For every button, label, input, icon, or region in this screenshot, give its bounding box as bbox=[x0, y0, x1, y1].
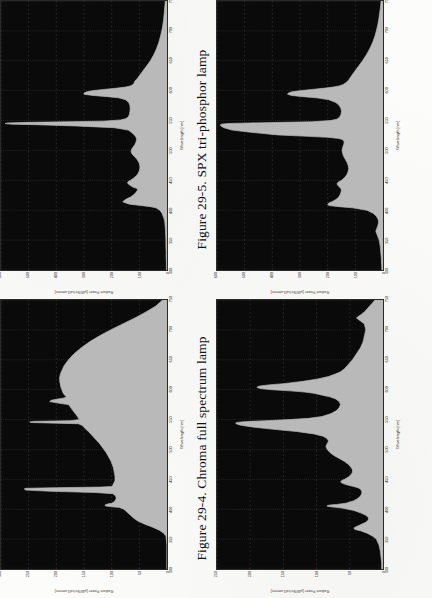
x-tick-label: 400 bbox=[169, 208, 173, 214]
x-tick-label: 500 bbox=[169, 446, 173, 452]
y-tick-label: 250 bbox=[26, 571, 30, 577]
y-tick-label: 600 bbox=[214, 272, 218, 278]
plot-canvas bbox=[216, 0, 384, 271]
x-tick-label: 400 bbox=[169, 507, 173, 513]
x-axis-label: Wavelength [nm] bbox=[179, 0, 188, 271]
spectrum-trace bbox=[5, 1, 167, 270]
y-tick-label: 150 bbox=[281, 571, 285, 577]
x-tick-label: 500 bbox=[385, 446, 389, 452]
x-tick-label: 350 bbox=[169, 238, 173, 244]
plot-wrapper bbox=[216, 299, 384, 570]
plot-wrapper bbox=[0, 299, 168, 570]
figure-block-29-4: Radiant Power [µW/Str/cd/Lumens] 0501001… bbox=[0, 299, 216, 598]
spectrum-svg bbox=[217, 300, 383, 569]
x-axis-ticks: 300350400450500550600650700750 bbox=[168, 0, 179, 271]
spectrum-trace bbox=[24, 300, 167, 569]
x-tick-label: 500 bbox=[385, 147, 389, 153]
x-tick-label: 350 bbox=[385, 537, 389, 543]
spectrum-svg bbox=[217, 1, 383, 270]
x-tick-label: 700 bbox=[385, 27, 389, 33]
x-tick-label: 750 bbox=[169, 296, 173, 302]
y-axis-label-text: Radiant Power [µW/Str/cd/Lumens] bbox=[55, 590, 114, 594]
y-tick-label: 400 bbox=[270, 272, 274, 278]
chart-top-right: Radiant Power [µW/Str/cd/Lumens] 0100200… bbox=[216, 0, 384, 299]
y-tick-label: 200 bbox=[54, 571, 58, 577]
figure-block-top-right: Radiant Power [µW/Str/cd/Lumens] 0100200… bbox=[216, 0, 432, 299]
x-tick-label: 300 bbox=[385, 268, 389, 274]
y-tick-label: 600 bbox=[0, 272, 2, 278]
x-tick-label: 450 bbox=[169, 477, 173, 483]
plot-canvas bbox=[0, 0, 168, 271]
x-tick-label: 650 bbox=[385, 57, 389, 63]
chart-29-5: Radiant Power [µW/Str/cd/Lumens] 0100200… bbox=[0, 0, 168, 299]
y-tick-label: 100 bbox=[138, 272, 142, 278]
y-tick-label: 100 bbox=[110, 571, 114, 577]
plot-canvas bbox=[216, 299, 384, 570]
chart-29-4: Radiant Power [µW/Str/cd/Lumens] 0501001… bbox=[0, 299, 168, 598]
x-tick-label: 500 bbox=[169, 147, 173, 153]
x-tick-label: 750 bbox=[385, 0, 389, 3]
spectrum-trace bbox=[236, 300, 383, 569]
y-tick-label: 200 bbox=[248, 571, 252, 577]
y-axis-label: Radiant Power [µW/Str/cd/Lumens] bbox=[0, 286, 168, 299]
x-tick-label: 600 bbox=[169, 87, 173, 93]
y-tick-label: 150 bbox=[82, 571, 86, 577]
x-tick-label: 600 bbox=[169, 386, 173, 392]
x-axis-label: Wavelength [nm] bbox=[179, 299, 188, 570]
x-tick-label: 700 bbox=[169, 27, 173, 33]
x-tick-label: 300 bbox=[169, 567, 173, 573]
chart-bottom-right: Radiant Power [µW/Str/cd/Lumens] 0501001… bbox=[216, 299, 384, 598]
x-tick-label: 600 bbox=[385, 87, 389, 93]
y-axis-ticks: 0100200300400500600 bbox=[0, 271, 168, 286]
y-axis-label: Radiant Power [µW/Str/cd/Lumens] bbox=[216, 585, 384, 598]
x-tick-label: 350 bbox=[385, 238, 389, 244]
y-axis-label: Radiant Power [µW/Str/cd/Lumens] bbox=[216, 286, 384, 299]
y-tick-label: 300 bbox=[82, 272, 86, 278]
x-tick-label: 700 bbox=[385, 326, 389, 332]
y-tick-label: 100 bbox=[354, 272, 358, 278]
x-tick-label: 650 bbox=[169, 57, 173, 63]
y-axis-label-text: Radiant Power [µW/Str/cd/Lumens] bbox=[271, 291, 330, 295]
x-tick-label: 400 bbox=[385, 208, 389, 214]
y-tick-label: 250 bbox=[214, 571, 218, 577]
plot-wrapper bbox=[0, 0, 168, 271]
figure-block-bottom-right: Radiant Power [µW/Str/cd/Lumens] 0501001… bbox=[216, 299, 432, 598]
y-axis-ticks: 050100150200250300 bbox=[0, 570, 168, 585]
y-tick-label: 200 bbox=[110, 272, 114, 278]
y-axis-label-text: Radiant Power [µW/Str/cd/Lumens] bbox=[55, 291, 114, 295]
x-tick-label: 550 bbox=[385, 416, 389, 422]
x-tick-label: 550 bbox=[169, 416, 173, 422]
y-tick-label: 300 bbox=[298, 272, 302, 278]
x-tick-label: 300 bbox=[169, 268, 173, 274]
figure-caption: Figure 29-4. Chroma full spectrum lamp bbox=[194, 299, 210, 598]
spectrum-svg bbox=[1, 1, 167, 270]
x-tick-label: 450 bbox=[385, 477, 389, 483]
x-tick-label: 600 bbox=[385, 386, 389, 392]
y-tick-label: 400 bbox=[54, 272, 58, 278]
x-tick-label: 550 bbox=[169, 117, 173, 123]
x-tick-label: 700 bbox=[169, 326, 173, 332]
figure-block-29-5: Radiant Power [µW/Str/cd/Lumens] 0100200… bbox=[0, 0, 216, 299]
y-tick-label: 500 bbox=[26, 272, 30, 278]
plot-wrapper bbox=[216, 0, 384, 271]
y-tick-label: 50 bbox=[348, 571, 352, 575]
y-tick-label: 300 bbox=[0, 571, 2, 577]
y-tick-label: 200 bbox=[326, 272, 330, 278]
x-tick-label: 350 bbox=[169, 537, 173, 543]
y-tick-label: 100 bbox=[315, 571, 319, 577]
x-tick-label: 750 bbox=[169, 0, 173, 3]
y-tick-label: 50 bbox=[138, 571, 142, 575]
x-tick-label: 750 bbox=[385, 296, 389, 302]
y-axis-ticks: 050100150200250 bbox=[216, 570, 384, 585]
spectrum-svg bbox=[1, 300, 167, 569]
x-tick-label: 650 bbox=[169, 356, 173, 362]
x-axis-ticks: 300350400450500550600650700750 bbox=[168, 299, 179, 570]
x-axis-ticks: 300350400450500550600650700750 bbox=[384, 0, 395, 271]
x-axis-ticks: 300350400450500550600650700750 bbox=[384, 299, 395, 570]
x-tick-label: 650 bbox=[385, 356, 389, 362]
x-tick-label: 400 bbox=[385, 507, 389, 513]
x-tick-label: 550 bbox=[385, 117, 389, 123]
plot-canvas bbox=[0, 299, 168, 570]
x-axis-label: Wavelength [nm] bbox=[395, 0, 404, 271]
x-axis-label: Wavelength [nm] bbox=[395, 299, 404, 570]
